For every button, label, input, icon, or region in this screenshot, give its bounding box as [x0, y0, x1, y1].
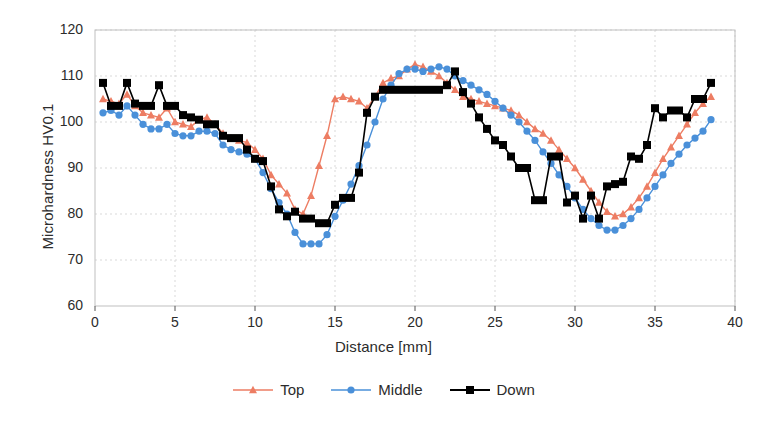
microhardness-chart: 60708090100110120 0510152025303540 Micro…: [0, 0, 767, 431]
chart-legend: TopMiddleDown: [0, 382, 767, 397]
x-tick-label: 15: [315, 314, 355, 330]
legend-marker-square-icon: [449, 383, 491, 397]
axis-ticks: [95, 306, 735, 311]
chart-plot-area: [0, 0, 767, 431]
legend-label: Top: [280, 382, 304, 397]
x-tick-label: 30: [555, 314, 595, 330]
legend-label: Down: [497, 382, 535, 397]
legend-item-down[interactable]: Down: [449, 382, 535, 397]
x-tick-label: 5: [155, 314, 195, 330]
series-top: [99, 60, 715, 219]
x-axis-title: Distance [mm]: [0, 338, 767, 355]
x-tick-label: 20: [395, 314, 435, 330]
x-tick-label: 35: [635, 314, 675, 330]
legend-item-middle[interactable]: Middle: [330, 382, 422, 397]
legend-marker-circle-icon: [330, 383, 372, 397]
x-tick-label: 0: [75, 314, 115, 330]
data-series-layer: [99, 60, 715, 247]
y-axis-title: Microhardness HV0.1: [39, 52, 56, 302]
y-tick-label: 120: [43, 21, 83, 37]
legend-item-top[interactable]: Top: [232, 382, 304, 397]
legend-label: Middle: [378, 382, 422, 397]
series-down: [99, 67, 715, 227]
x-tick-label: 40: [715, 314, 755, 330]
legend-marker-triangle-icon: [232, 383, 274, 397]
x-tick-label: 25: [475, 314, 515, 330]
x-tick-label: 10: [235, 314, 275, 330]
